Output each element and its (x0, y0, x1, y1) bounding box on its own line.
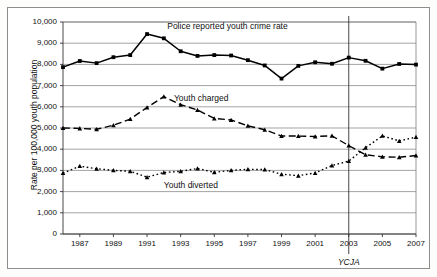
data-point-marker (263, 64, 267, 68)
data-point-marker (128, 117, 133, 121)
y-tick-label-8000: 8,000 (13, 59, 57, 68)
data-point-marker (346, 143, 351, 147)
data-point-marker (330, 134, 335, 138)
series-line-1 (63, 97, 416, 158)
data-point-marker (212, 53, 216, 57)
data-point-marker (229, 54, 233, 58)
series-line-2 (63, 136, 416, 177)
data-point-marker (94, 166, 99, 170)
series-label-youth-diverted: Youth diverted (164, 180, 218, 190)
data-point-marker (313, 171, 318, 175)
data-point-marker (347, 56, 351, 60)
data-point-marker (262, 167, 267, 171)
data-point-marker (162, 36, 166, 40)
data-point-marker (162, 94, 167, 98)
y-tick-label-4000: 4,000 (13, 144, 57, 153)
x-tick-label-2007: 2007 (396, 239, 436, 248)
data-point-marker (397, 62, 401, 66)
data-point-marker (196, 54, 200, 58)
data-point-marker (246, 58, 250, 62)
data-point-marker (112, 55, 116, 59)
data-point-marker (78, 59, 82, 63)
data-point-marker (95, 61, 99, 65)
data-point-marker (296, 64, 300, 68)
y-tick-label-1000: 1,000 (13, 208, 57, 217)
y-tick-label-9000: 9,000 (13, 38, 57, 47)
series-label-police-reported: Police reported youth crime rate (167, 21, 287, 31)
data-point-marker (363, 145, 368, 149)
y-tick-label-6000: 6,000 (13, 102, 57, 111)
series-line-0 (63, 34, 416, 79)
line-chart-canvas (8, 8, 429, 268)
data-point-marker (313, 60, 317, 64)
y-tick-label-2000: 2,000 (13, 187, 57, 196)
chart-figure: Rate per 100,000 youth population 01,000… (0, 0, 437, 277)
series-label-youth-charged: Youth charged (174, 93, 229, 103)
data-point-marker (414, 63, 418, 67)
data-point-marker (145, 105, 150, 109)
chart-plot-frame: Rate per 100,000 youth population 01,000… (7, 7, 430, 269)
y-tick-label-5000: 5,000 (13, 123, 57, 132)
data-point-marker (330, 62, 334, 66)
data-point-marker (128, 53, 132, 57)
data-point-marker (145, 32, 149, 36)
data-point-marker (246, 167, 251, 171)
data-point-marker (78, 164, 83, 168)
y-tick-label-7000: 7,000 (13, 81, 57, 90)
y-tick-label-0: 0 (13, 229, 57, 238)
data-point-marker (195, 108, 200, 112)
data-point-marker (179, 49, 183, 53)
data-point-marker (280, 77, 284, 81)
data-point-marker (61, 65, 65, 69)
ycja-annotation-label: YCJA (319, 257, 379, 267)
data-point-marker (279, 172, 284, 176)
y-tick-label-10000: 10,000 (13, 17, 57, 26)
data-point-marker (364, 59, 368, 63)
y-tick-label-3000: 3,000 (13, 165, 57, 174)
data-point-marker (414, 135, 419, 139)
data-point-marker (380, 67, 384, 71)
data-point-marker (296, 173, 301, 177)
